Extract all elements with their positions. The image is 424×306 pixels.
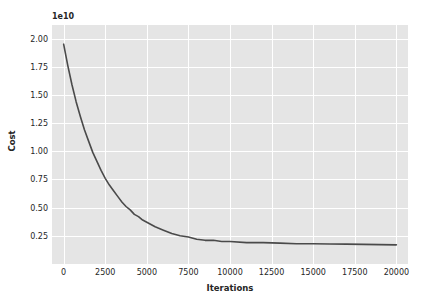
y-tick-label: 2.00 — [4, 34, 48, 43]
y-tick-label: 0.75 — [4, 175, 48, 184]
y-axis-label: Cost — [7, 111, 17, 171]
x-axis-tick-labels: 02500500075001000012500150001750020000 — [52, 268, 408, 280]
x-axis-label: Iterations — [52, 283, 408, 293]
x-tick-label: 2500 — [95, 268, 115, 278]
y-tick-label: 1.75 — [4, 62, 48, 71]
chart-figure: 1e10 0.250.500.751.001.251.501.752.00 02… — [0, 0, 424, 306]
x-tick-label: 7500 — [178, 268, 198, 278]
x-tick-label: 20000 — [384, 268, 409, 278]
x-tick-label: 10000 — [217, 268, 242, 278]
y-axis-offset-text: 1e10 — [52, 12, 74, 21]
y-tick-label: 1.50 — [4, 90, 48, 99]
x-tick-label: 12500 — [259, 268, 284, 278]
plot-area — [52, 25, 408, 264]
cost-curve-line — [64, 44, 397, 245]
cost-curve-svg — [52, 25, 408, 264]
x-tick-label: 0 — [61, 268, 66, 278]
y-tick-label: 0.25 — [4, 231, 48, 240]
x-tick-label: 5000 — [137, 268, 157, 278]
x-tick-label: 15000 — [300, 268, 325, 278]
y-tick-label: 0.50 — [4, 203, 48, 212]
x-tick-label: 17500 — [342, 268, 367, 278]
